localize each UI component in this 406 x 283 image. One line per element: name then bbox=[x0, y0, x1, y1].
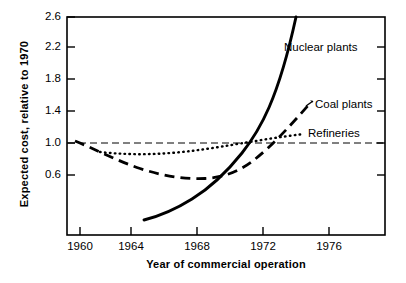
refineries-label: Refineries bbox=[308, 127, 360, 139]
x-axis-ticks bbox=[80, 227, 329, 235]
coal-plants-leader-line bbox=[306, 101, 313, 106]
x-tick-label-1968: 1968 bbox=[172, 240, 222, 252]
x-tick-label-1960: 1960 bbox=[55, 240, 105, 252]
x-axis-title: Year of commercial operation bbox=[67, 258, 385, 270]
nuclear-plants-label: Nuclear plants bbox=[284, 41, 358, 53]
y-axis-ticks-right bbox=[377, 47, 385, 175]
series-line-coal-plants bbox=[75, 101, 312, 179]
x-tick-label-1964: 1964 bbox=[106, 240, 156, 252]
x-tick-label-1972: 1972 bbox=[238, 240, 288, 252]
chart-figure: 2.6 2.2 1.8 1.4 1.0 0.6 1960 1964 1968 1… bbox=[0, 0, 406, 283]
y-axis-title: Expected cost, relative to 1970 bbox=[18, 14, 30, 234]
coal-plants-label: Coal plants bbox=[315, 98, 373, 110]
x-tick-label-1976: 1976 bbox=[304, 240, 354, 252]
series-line-nuclear-plants bbox=[144, 17, 296, 220]
y-axis-ticks-left bbox=[67, 17, 75, 175]
